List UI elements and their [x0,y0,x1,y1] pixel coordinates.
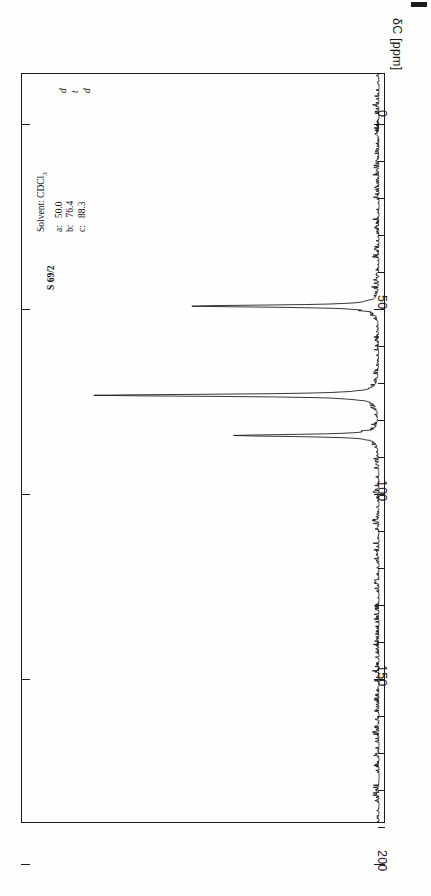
register-mark-icon [411,2,427,7]
spectrum-trace [21,73,385,823]
axis-tick-label-200: 200 [375,850,389,871]
axis-tick-stub-200 [21,864,30,865]
axis-tick-minor-19 [378,827,385,828]
scan-page: 050100150200 δC [ppm] S 69/2 Solvent: CD… [0,0,431,896]
axis-title: δC [ppm] [390,18,404,70]
spectrum-path [94,73,379,823]
spectrum-svg [21,73,385,823]
